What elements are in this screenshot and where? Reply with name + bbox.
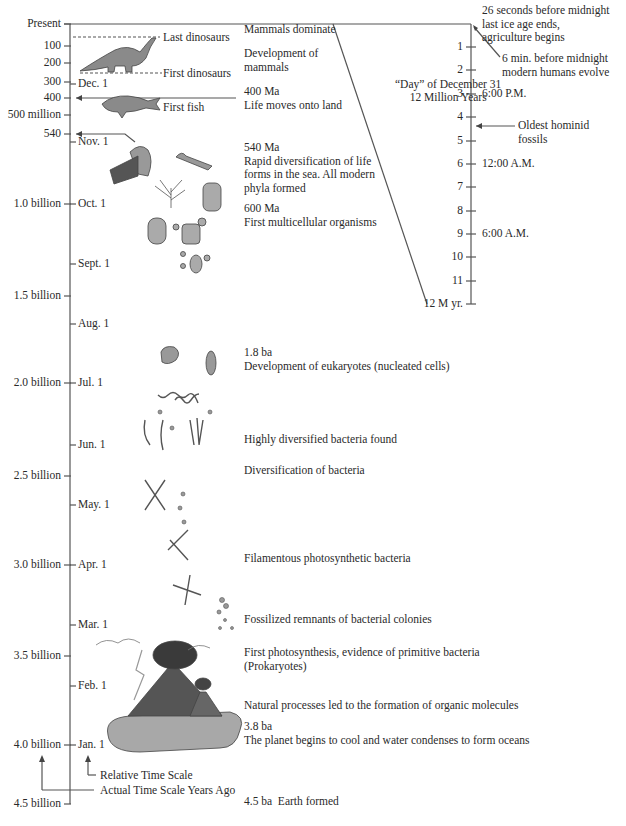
day-tick-label: 12 M yr. bbox=[424, 297, 463, 310]
eukaryote-illustration bbox=[161, 347, 216, 375]
ice-age-annotation: 26 seconds before midnight last ice age … bbox=[482, 4, 609, 45]
relative-tick-label: May. 1 bbox=[78, 498, 110, 511]
first-dinosaurs-label: First dinosaurs bbox=[163, 67, 231, 80]
actual-tick-label: 2.0 billion bbox=[14, 376, 61, 389]
last-dinosaurs-label: Last dinosaurs bbox=[163, 31, 230, 44]
event-label: 4.5 ba Earth formed bbox=[244, 795, 339, 809]
relative-tick-label: Mar. 1 bbox=[78, 618, 108, 631]
relative-tick-label: Jul. 1 bbox=[78, 376, 103, 389]
day-tick-label: 1 bbox=[457, 40, 463, 53]
actual-tick-label: 540 bbox=[44, 127, 61, 140]
event-label: 540 Ma Rapid diversification of life for… bbox=[244, 141, 375, 195]
event-label: Fossilized remnants of bacterial colonie… bbox=[244, 613, 432, 627]
day-time-label: 12:00 A.M. bbox=[482, 157, 535, 170]
relative-scale-axis-label: Relative Time Scale bbox=[100, 769, 193, 782]
actual-tick-label: 1.0 billion bbox=[14, 197, 61, 210]
actual-tick-label: 300 bbox=[44, 75, 61, 88]
actual-tick-label: 4.5 billion bbox=[14, 797, 61, 810]
actual-tick-label: 100 bbox=[44, 39, 61, 52]
relative-tick-label: Aug. 1 bbox=[78, 317, 109, 330]
event-label: Diversification of bacteria bbox=[244, 464, 365, 478]
day-tick-label: 6 bbox=[457, 157, 463, 170]
actual-tick-label: 500 million bbox=[8, 108, 61, 121]
hominid-annotation: Oldest hominid fossils bbox=[518, 119, 589, 146]
day-tick-label: 9 bbox=[457, 227, 463, 240]
relative-tick-label: Sept. 1 bbox=[78, 257, 110, 270]
actual-tick-label: 3.5 billion bbox=[14, 649, 61, 662]
actual-tick-label: 3.0 billion bbox=[14, 558, 61, 571]
event-label: Natural processes led to the formation o… bbox=[244, 699, 518, 713]
sea-life-illustration bbox=[110, 146, 221, 273]
day-tick-label: 7 bbox=[457, 180, 463, 193]
event-label: 400 Ma Life moves onto land bbox=[244, 85, 342, 112]
relative-tick-label: Apr. 1 bbox=[78, 558, 107, 571]
dinosaur-illustration bbox=[80, 38, 156, 72]
day-tick-label: 2 bbox=[457, 63, 463, 76]
day-tick-label: 10 bbox=[452, 250, 464, 263]
day-time-label: 6:00 A.M. bbox=[482, 227, 529, 240]
event-label: Development of mammals bbox=[244, 47, 318, 74]
volcano-illustration bbox=[96, 639, 242, 752]
event-label: First photosynthesis, evidence of primit… bbox=[244, 646, 480, 673]
day-tick-label: 8 bbox=[457, 204, 463, 217]
actual-tick-label: 200 bbox=[44, 56, 61, 69]
actual-tick-label: 2.5 billion bbox=[14, 469, 61, 482]
actual-tick-label: 1.5 billion bbox=[14, 289, 61, 302]
actual-scale-axis-label: Actual Time Scale Years Ago bbox=[100, 784, 235, 797]
event-label: Mammals dominate bbox=[244, 23, 336, 37]
fish-illustration bbox=[102, 96, 160, 118]
relative-tick-label: Feb. 1 bbox=[78, 679, 107, 692]
bacteria-illustration bbox=[144, 393, 203, 606]
day-tick-label: 4 bbox=[457, 110, 463, 123]
bacteria-dots bbox=[158, 410, 234, 630]
event-label: 1.8 ba Development of eukaryotes (nuclea… bbox=[244, 346, 450, 373]
modern-humans-annotation: 6 min. before midnight modern humans evo… bbox=[502, 52, 609, 79]
actual-tick-label: 400 bbox=[44, 91, 61, 104]
actual-tick-label: Present bbox=[27, 17, 61, 30]
relative-tick-label: Oct. 1 bbox=[78, 197, 106, 210]
event-label: 600 Ma First multicellular organisms bbox=[244, 202, 377, 229]
actual-tick-label: 4.0 billion bbox=[14, 738, 61, 751]
event-label: Highly diversified bacteria found bbox=[244, 433, 397, 447]
first-fish-label: First fish bbox=[163, 101, 204, 114]
event-label: Filamentous photosynthetic bacteria bbox=[244, 552, 411, 566]
relative-tick-label: Jun. 1 bbox=[78, 438, 105, 451]
relative-tick-label: Nov. 1 bbox=[78, 135, 109, 148]
day-scale-title: “Day” of December 31 12 Million Years bbox=[395, 78, 501, 104]
day-tick-label: 11 bbox=[452, 274, 463, 287]
relative-tick-label: Dec. 1 bbox=[78, 77, 108, 90]
event-label: 3.8 ba The planet begins to cool and wat… bbox=[244, 720, 530, 747]
relative-tick-label: Jan. 1 bbox=[78, 738, 105, 751]
day-tick-label: 5 bbox=[457, 134, 463, 147]
